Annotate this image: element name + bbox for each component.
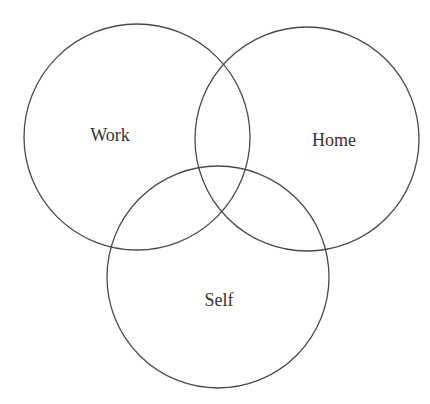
home-label: Home — [312, 130, 356, 150]
home-circle — [195, 27, 419, 251]
venn-diagram: Work Home Self — [0, 0, 430, 404]
self-label: Self — [205, 290, 234, 310]
work-label: Work — [90, 125, 130, 145]
self-circle — [107, 166, 329, 388]
work-circle — [24, 24, 250, 250]
venn-svg: Work Home Self — [0, 0, 430, 404]
